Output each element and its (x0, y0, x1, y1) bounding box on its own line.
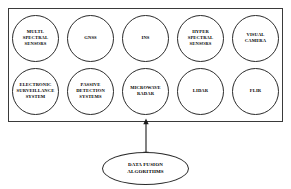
sensor-node-lidar[interactable]: LIDAR (177, 68, 224, 115)
sensor-node-visual-camera[interactable]: VISUAL CAMERA (232, 15, 279, 62)
data-fusion-algorithms-label: DATA FUSION ALGORITHMS (127, 162, 164, 176)
sensor-node-label: MICROWAVE RADAR (119, 85, 173, 97)
sensor-node-label: ELECTRONIC SURVEILLANCE SYSTEM (9, 82, 63, 100)
sensor-node-label: PASSIVE DETECTION SYSTEMS (64, 82, 118, 100)
sensor-node-label: GNSS (64, 35, 118, 41)
sensor-row-2: ELECTRONIC SURVEILLANCE SYSTEM PASSIVE D… (9, 67, 282, 115)
sensor-node-label: VISUAL CAMERA (229, 32, 283, 44)
sensor-node-label: FLIR (229, 88, 283, 94)
sensor-node-electronic-surveillance-system[interactable]: ELECTRONIC SURVEILLANCE SYSTEM (12, 68, 59, 115)
sensor-row-1: MULTI- SPECTRAL SENSORS GNSS INS HYPER S… (9, 14, 282, 62)
sensor-node-ins[interactable]: INS (122, 15, 169, 62)
sensor-node-multi-spectral-sensors[interactable]: MULTI- SPECTRAL SENSORS (12, 15, 59, 62)
data-fusion-algorithms-node[interactable]: DATA FUSION ALGORITHMS (102, 152, 189, 185)
sensor-node-label: MULTI- SPECTRAL SENSORS (9, 29, 63, 47)
sensor-node-label: LIDAR (174, 88, 228, 94)
sensor-node-flir[interactable]: FLIR (232, 68, 279, 115)
sensor-node-gnss[interactable]: GNSS (67, 15, 114, 62)
sensor-node-hyper-spectral-sensors[interactable]: HYPER SPECTRAL SENSORS (177, 15, 224, 62)
sensor-node-passive-detection-systems[interactable]: PASSIVE DETECTION SYSTEMS (67, 68, 114, 115)
diagram-root: MULTI- SPECTRAL SENSORS GNSS INS HYPER S… (0, 0, 291, 189)
sensor-suite-container: MULTI- SPECTRAL SENSORS GNSS INS HYPER S… (8, 8, 283, 122)
sensor-node-label: INS (119, 35, 173, 41)
sensor-node-microwave-radar[interactable]: MICROWAVE RADAR (122, 68, 169, 115)
sensor-node-label: HYPER SPECTRAL SENSORS (174, 29, 228, 47)
